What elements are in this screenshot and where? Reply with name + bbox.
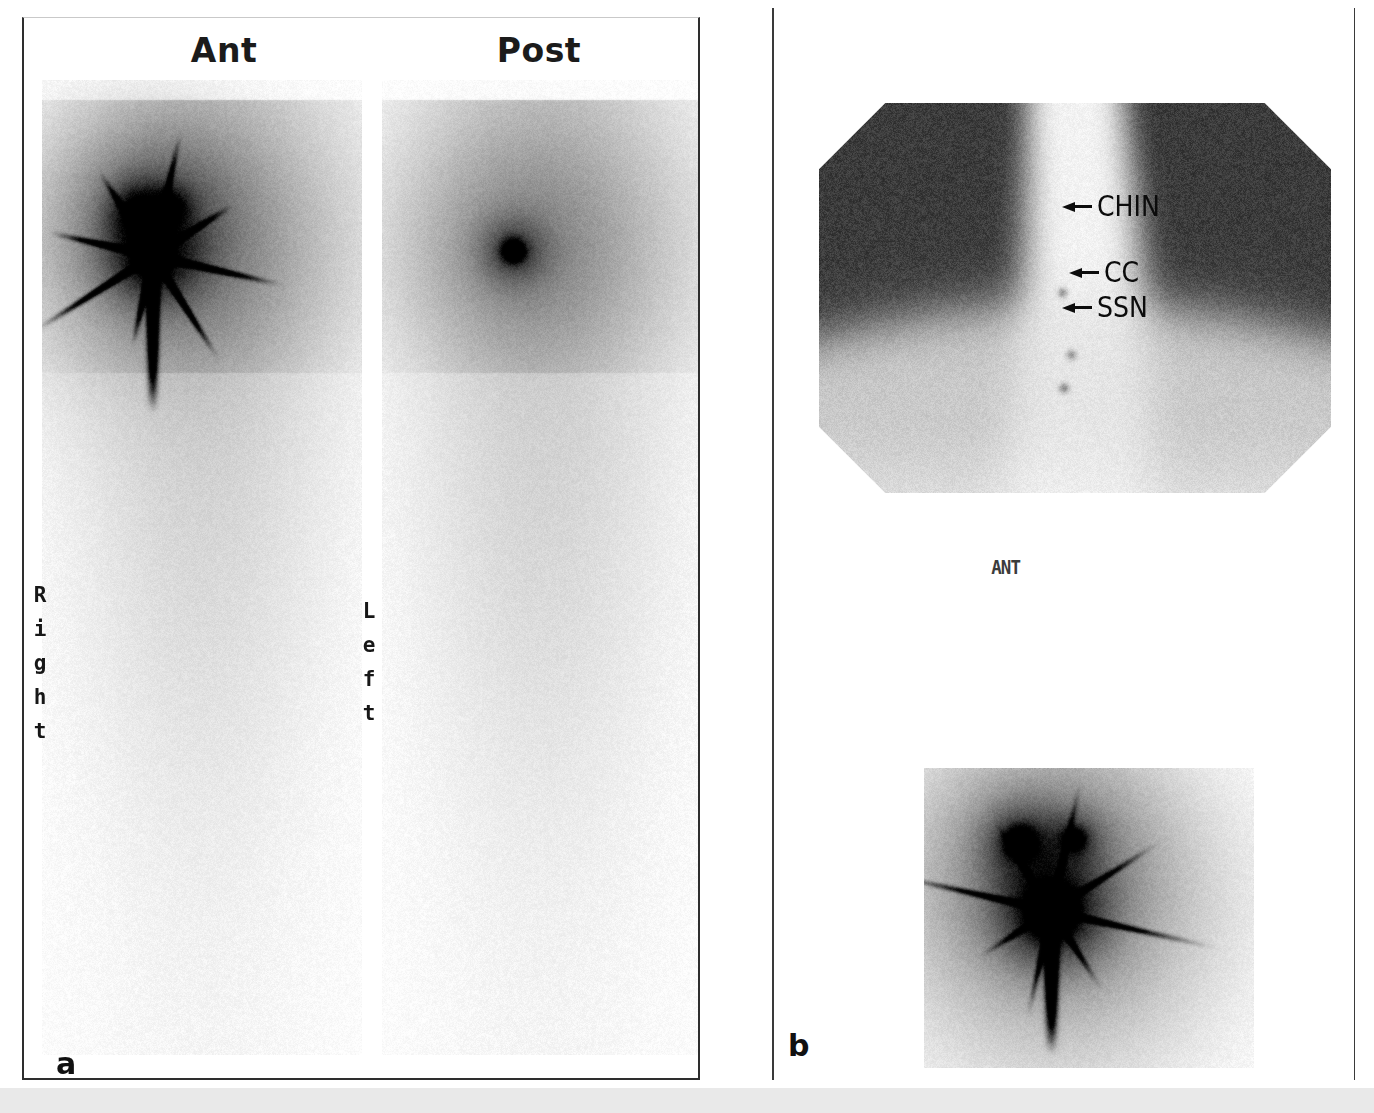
orientation-letter: t bbox=[357, 696, 381, 730]
arrow-left-icon bbox=[1062, 199, 1092, 215]
panel-letter-b: b bbox=[788, 1028, 809, 1063]
annotation-ssn-label: SSN bbox=[1097, 291, 1148, 324]
orientation-letter: e bbox=[357, 628, 381, 662]
panel-letter-a: a bbox=[56, 1046, 76, 1080]
orientation-letter: i bbox=[28, 612, 52, 646]
annotation-ssn: SSN bbox=[1062, 291, 1154, 324]
bottom-band bbox=[0, 1088, 1374, 1113]
orientation-letter: g bbox=[28, 646, 52, 680]
scan-image-posterior bbox=[382, 80, 700, 1055]
annotation-cc: CC bbox=[1069, 256, 1143, 289]
figure-root: Ant Post Right Left a CHIN CC SSN ANT b bbox=[0, 0, 1374, 1113]
orientation-marker-right: Right bbox=[28, 578, 52, 748]
view-label-anterior-b: ANT bbox=[991, 556, 1020, 578]
annotation-cc-label: CC bbox=[1104, 256, 1139, 289]
orientation-marker-left: Left bbox=[357, 594, 381, 730]
annotation-chin: CHIN bbox=[1062, 190, 1167, 223]
view-title-posterior: Post bbox=[444, 31, 634, 70]
view-title-anterior: Ant bbox=[134, 31, 314, 70]
orientation-letter: L bbox=[357, 594, 381, 628]
orientation-letter: f bbox=[357, 662, 381, 696]
scan-image-lymphoscintigram bbox=[924, 768, 1254, 1068]
arrow-left-icon bbox=[1062, 300, 1092, 316]
panel-b: CHIN CC SSN ANT b bbox=[774, 8, 1354, 1080]
arrow-left-icon bbox=[1069, 265, 1099, 281]
orientation-letter: h bbox=[28, 680, 52, 714]
orientation-letter: R bbox=[28, 578, 52, 612]
orientation-letter: t bbox=[28, 714, 52, 748]
scan-image-anterior bbox=[42, 80, 362, 1055]
panel-a: Ant Post Right Left a bbox=[22, 17, 700, 1080]
annotation-chin-label: CHIN bbox=[1097, 190, 1160, 223]
